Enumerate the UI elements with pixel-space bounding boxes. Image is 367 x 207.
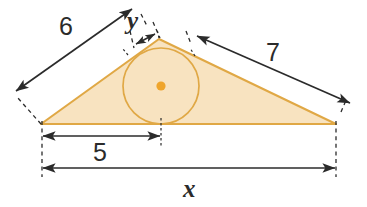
extension-left-vertex-diagonal xyxy=(17,97,41,124)
incircle-center-dot xyxy=(156,81,165,90)
extension-apex-up xyxy=(141,14,147,26)
extension-apex-right xyxy=(186,31,191,44)
dimension-label-x: x xyxy=(183,176,196,201)
dimension-label-6: 6 xyxy=(59,14,73,39)
dimension-arrow-y xyxy=(136,34,155,44)
triangle-with-incircle xyxy=(41,39,336,124)
dimension-label-y: y xyxy=(127,8,138,33)
tangent-tick-left xyxy=(123,49,128,55)
dimension-label-5: 5 xyxy=(93,140,107,165)
geometry-figure: 6 y 7 5 x xyxy=(0,0,367,207)
dimension-label-7: 7 xyxy=(266,40,280,65)
